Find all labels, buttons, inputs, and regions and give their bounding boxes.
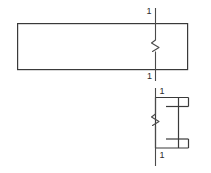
technical-drawing-svg: 1 1 1 1 — [0, 0, 211, 173]
break-symbol-zigzag-upper — [152, 40, 160, 52]
elevation-view-group — [18, 24, 188, 70]
elevation-rectangle — [18, 24, 188, 70]
section-label-elevation-bottom: 1 — [147, 71, 152, 81]
section-label-section-bottom: 1 — [159, 150, 164, 160]
section-label-elevation-top: 1 — [146, 6, 151, 16]
technical-drawing-canvas: 1 1 1 1 — [0, 0, 211, 173]
section-label-section-top: 1 — [159, 86, 164, 96]
section-view-group — [156, 98, 189, 149]
